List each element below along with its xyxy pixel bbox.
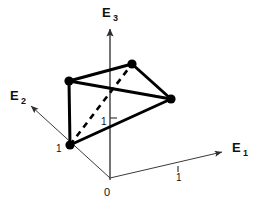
vertex-left-upper	[64, 76, 73, 85]
vertex-top	[127, 59, 136, 68]
tick-mark-group	[110, 118, 178, 172]
edge-leftlower-right	[70, 99, 171, 145]
dashed-edge-group	[70, 64, 132, 145]
tick-label-e2-one: 1	[56, 143, 62, 154]
solid-edge-group	[69, 64, 171, 145]
axis-line-e1	[110, 152, 222, 178]
axis-group	[31, 29, 222, 180]
axis-label-e1-base: E	[232, 140, 241, 155]
origin-label: 0	[104, 186, 110, 198]
vertex-right	[166, 94, 175, 103]
axis-label-group: E 1 E 2 E 3	[10, 5, 248, 158]
figure-canvas: E 1 E 2 E 3 1 1 1 0	[0, 0, 258, 206]
tick-label-e3-one: 1	[101, 116, 107, 127]
edge-hidden-leftlower-top	[70, 64, 132, 145]
axis-label-e3-sub: 3	[113, 13, 118, 23]
edge-leftupper-top	[69, 64, 132, 81]
tick-label-e1-one: 1	[176, 172, 182, 183]
axis-label-e3-base: E	[102, 5, 111, 20]
edge-leftupper-leftlower	[69, 81, 70, 145]
axis-label-e2-sub: 2	[21, 96, 26, 106]
axis-label-e1-sub: 1	[243, 148, 248, 158]
tick-label-group: 1 1 1	[56, 116, 182, 183]
axis-label-e2-base: E	[10, 88, 19, 103]
simplex-diagram: E 1 E 2 E 3 1 1 1 0	[0, 0, 258, 206]
vertex-left-lower	[65, 140, 74, 149]
